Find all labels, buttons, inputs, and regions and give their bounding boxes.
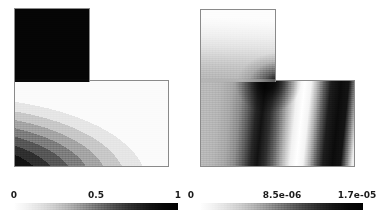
left-colorbar-max-label: 1	[175, 190, 181, 200]
left-panel-lower-block	[14, 80, 169, 167]
left-lower-field	[14, 80, 169, 167]
right-colorbar	[200, 203, 363, 210]
left-colorbar-gradient	[14, 203, 178, 210]
left-panel-upper-block	[14, 8, 89, 81]
left-upper-field	[14, 8, 89, 81]
right-upper-field	[200, 9, 275, 81]
right-colorbar-max-label: 1.7e-05	[338, 190, 376, 200]
right-colorbar-mid-label: 8.5e-06	[263, 190, 301, 200]
figure-canvas: 0 0.5 1 0 8.5e-06 1.7e-05	[0, 0, 386, 214]
left-colorbar-min-label: 0	[11, 190, 17, 200]
right-lower-field	[200, 80, 355, 167]
right-panel-internal-seam-mask	[201, 79, 275, 82]
left-colorbar-mid-label: 0.5	[88, 190, 104, 200]
left-colorbar	[14, 203, 178, 210]
left-panel-internal-seam-mask	[15, 79, 89, 82]
right-colorbar-min-label: 0	[188, 190, 194, 200]
right-panel-lower-block	[200, 80, 355, 167]
left-contour-panel	[14, 8, 169, 167]
right-contour-panel	[200, 9, 355, 167]
right-panel-upper-block	[200, 9, 275, 81]
right-colorbar-gradient	[200, 203, 363, 210]
